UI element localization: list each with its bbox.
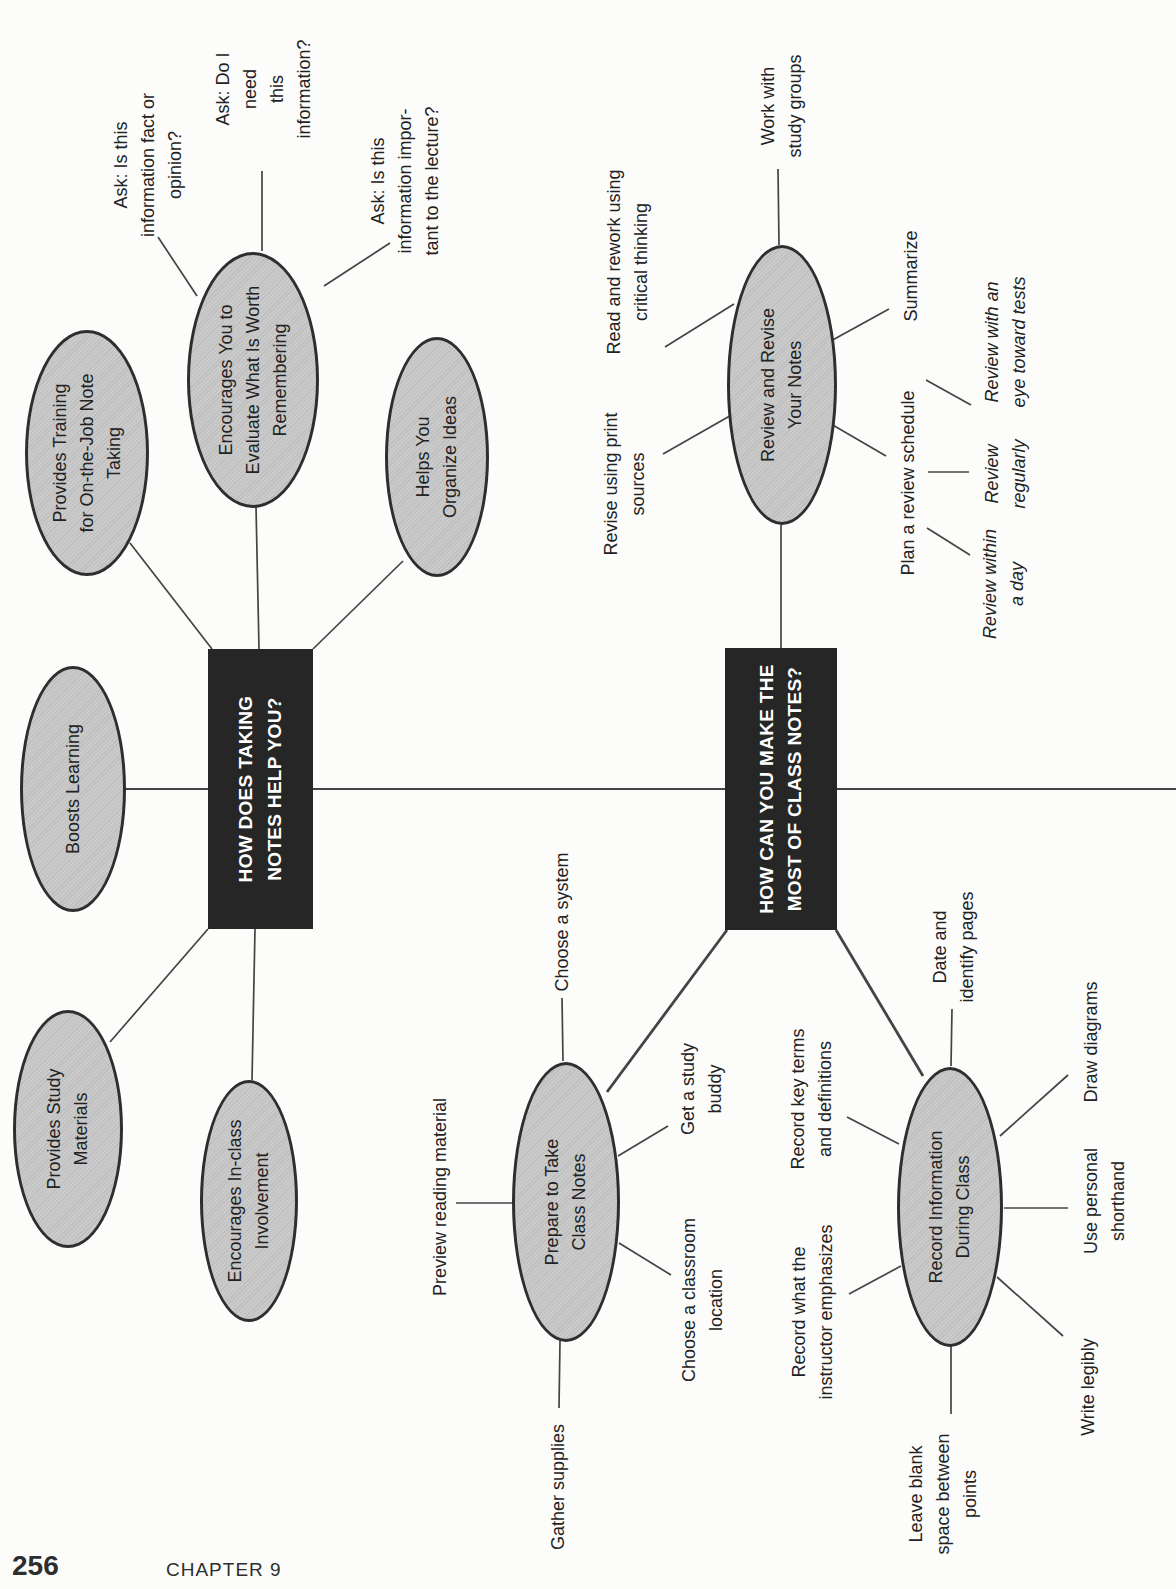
label-draw-diagrams: Draw diagrams [1078, 981, 1105, 1102]
label-ask-fact-or-opinion: Ask: Is this information fact or opinion… [108, 93, 189, 237]
node-encourages-inclass: Encourages In-class Involvement [200, 1080, 298, 1322]
label-preview-reading: Preview reading material [427, 1098, 454, 1296]
label-gather-supplies: Gather supplies [545, 1424, 572, 1550]
label-choose-system: Choose a system [549, 852, 576, 991]
node-helps-organize: Helps You Organize Ideas [385, 337, 489, 577]
label-record-key-terms: Record key terms and definitions [785, 1028, 839, 1169]
node-record-information: Record Information During Class [897, 1067, 1003, 1347]
label-record-instructor-emphasizes: Record what the instructor emphasizes [786, 1224, 840, 1399]
label-revise-print-sources: Revise using print sources [598, 412, 652, 555]
label-review-eye-toward-tests: Review with an eye toward tests [979, 276, 1033, 407]
label-get-study-buddy: Get a study buddy [675, 1043, 729, 1135]
page-number: 256 [12, 1550, 59, 1582]
label-date-identify-pages: Date and identify pages [927, 891, 981, 1002]
label-plan-review-schedule: Plan a review schedule [895, 390, 922, 575]
chapter-label: CHAPTER 9 [166, 1559, 282, 1581]
node-encourages-evaluate: Encourages You to Evaluate What Is Worth… [187, 252, 319, 508]
map1-center-box: HOW DOES TAKING NOTES HELP YOU? [208, 649, 313, 929]
node-provides-study: Provides Study Materials [13, 1010, 123, 1248]
label-ask-important-to-lecture: Ask: Is this information impor- tant to … [365, 106, 446, 255]
label-ask-do-i-need: Ask: Do I need this information? [210, 39, 318, 138]
label-use-personal-shorthand: Use personal shorthand [1078, 1148, 1132, 1254]
node-review-revise: Review and Revise Your Notes [727, 245, 837, 525]
label-summarize: Summarize [898, 230, 925, 321]
label-leave-blank-space: Leave blank space between points [903, 1433, 984, 1554]
node-provides-training: Provides Training for On-the-Job Note Ta… [25, 330, 149, 576]
label-choose-classroom: Choose a classroom location [676, 1218, 730, 1382]
label-write-legibly: Write legibly [1075, 1338, 1102, 1436]
node-boosts-learning: Boosts Learning [20, 666, 126, 912]
map2-center-box: HOW CAN YOU MAKE THE MOST OF CLASS NOTES… [725, 648, 837, 930]
concept-map-figure: HOW DOES TAKING NOTES HELP YOU? Provides… [0, 0, 1176, 1589]
label-review-regularly: Review regularly [979, 439, 1033, 508]
node-prepare-take-notes: Prepare to Take Class Notes [512, 1062, 620, 1342]
connector-lines [0, 0, 1176, 1589]
label-read-rework: Read and rework using critical thinking [601, 169, 655, 354]
label-work-study-groups: Work with study groups [755, 54, 809, 157]
label-review-within-day: Review within a day [977, 529, 1031, 639]
